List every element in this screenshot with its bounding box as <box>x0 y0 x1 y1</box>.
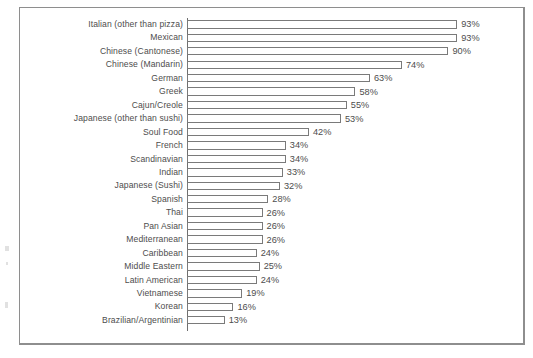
chart-row: Latin American24% <box>20 274 526 287</box>
chart-row: Chinese (Mandarin)74% <box>20 58 526 71</box>
chart-row: Cajun/Creole55% <box>20 99 526 112</box>
bar-value-label: 24% <box>261 274 279 287</box>
scan-artifact-mark <box>5 302 8 308</box>
category-label: Middle Eastern <box>124 260 183 273</box>
bar-value-label: 74% <box>406 59 424 72</box>
bar-value-label: 32% <box>284 180 302 193</box>
chart-row: Japanese (other than sushi)53% <box>20 112 526 125</box>
bar-value-label: 19% <box>246 287 264 300</box>
bar-value-label: 63% <box>374 72 392 85</box>
bar-value-label: 34% <box>290 153 308 166</box>
chart-row: French34% <box>20 139 526 152</box>
bar-value-label: 53% <box>345 113 363 126</box>
bar <box>187 155 286 163</box>
category-label: Chinese (Mandarin) <box>106 58 183 71</box>
bar-value-label: 26% <box>267 220 285 233</box>
chart-frame: Italian (other than pizza)93%Mexican93%C… <box>19 7 525 345</box>
bar-value-label: 24% <box>261 247 279 260</box>
bar-value-label: 26% <box>267 207 285 220</box>
bar <box>187 249 257 257</box>
chart-row: Scandinavian34% <box>20 153 526 166</box>
category-label: Mexican <box>150 31 183 44</box>
bar <box>187 262 260 270</box>
bar <box>187 303 233 311</box>
bar-value-label: 93% <box>461 32 479 45</box>
bar-chart-plot-area: Italian (other than pizza)93%Mexican93%C… <box>20 8 526 346</box>
chart-row: Pan Asian26% <box>20 220 526 233</box>
bar <box>187 208 263 216</box>
chart-row: Caribbean24% <box>20 247 526 260</box>
category-label: Chinese (Cantonese) <box>100 45 183 58</box>
bar <box>187 289 242 297</box>
category-label: Vietnamese <box>137 287 183 300</box>
chart-row: Japanese (Sushi)32% <box>20 179 526 192</box>
bar <box>187 316 225 324</box>
chart-row: Mexican93% <box>20 31 526 44</box>
category-label: Scandinavian <box>130 153 183 166</box>
chart-row: Korean16% <box>20 300 526 313</box>
category-label: Latin American <box>125 274 183 287</box>
bar <box>187 114 341 122</box>
category-label: Brazilian/Argentinian <box>102 314 183 327</box>
bar-value-label: 28% <box>272 193 290 206</box>
category-label: Mediterranean <box>126 233 183 246</box>
category-label: Japanese (other than sushi) <box>74 112 183 125</box>
category-label: Italian (other than pizza) <box>88 18 183 31</box>
bar <box>187 128 309 136</box>
bar-value-label: 58% <box>359 86 377 99</box>
bar <box>187 168 283 176</box>
chart-row: Spanish28% <box>20 193 526 206</box>
chart-row: Mediterranean26% <box>20 233 526 246</box>
category-label: Thai <box>166 206 183 219</box>
bar-value-label: 33% <box>287 166 305 179</box>
bar-value-label: 42% <box>313 126 331 139</box>
bar-value-label: 16% <box>237 301 255 314</box>
chart-row: Greek58% <box>20 85 526 98</box>
bar <box>187 74 370 82</box>
bar <box>187 34 457 42</box>
chart-row: Chinese (Cantonese)90% <box>20 45 526 58</box>
category-label: Japanese (Sushi) <box>115 179 183 192</box>
bar <box>187 235 263 243</box>
chart-row: Italian (other than pizza)93% <box>20 18 526 31</box>
category-label: Caribbean <box>142 247 183 260</box>
category-label: French <box>156 139 183 152</box>
category-label: Indian <box>159 166 183 179</box>
bar <box>187 182 280 190</box>
chart-row: Middle Eastern25% <box>20 260 526 273</box>
bar-value-label: 13% <box>229 314 247 327</box>
category-label: Pan Asian <box>143 220 183 233</box>
bar <box>187 61 402 69</box>
chart-row: Vietnamese19% <box>20 287 526 300</box>
chart-row: Thai26% <box>20 206 526 219</box>
scan-artifact-mark <box>5 246 9 251</box>
bar <box>187 141 286 149</box>
chart-row: Indian33% <box>20 166 526 179</box>
bar <box>187 20 457 28</box>
category-label: Spanish <box>151 193 183 206</box>
category-label: Korean <box>155 300 183 313</box>
chart-row: German63% <box>20 72 526 85</box>
bar <box>187 101 347 109</box>
category-label: Cajun/Creole <box>132 99 183 112</box>
scan-artifact-mark <box>6 262 8 265</box>
bar <box>187 87 355 95</box>
bar-value-label: 90% <box>452 45 470 58</box>
bar-value-label: 93% <box>461 18 479 31</box>
chart-row: Brazilian/Argentinian13% <box>20 314 526 327</box>
category-label: Greek <box>159 85 183 98</box>
bar-value-label: 34% <box>290 139 308 152</box>
bar <box>187 276 257 284</box>
bar <box>187 222 263 230</box>
bar-value-label: 55% <box>351 99 369 112</box>
bar <box>187 47 448 55</box>
bar-value-label: 25% <box>264 260 282 273</box>
chart-row: Soul Food42% <box>20 126 526 139</box>
category-label: German <box>151 72 183 85</box>
bar-value-label: 26% <box>267 234 285 247</box>
bar <box>187 195 268 203</box>
category-label: Soul Food <box>143 126 183 139</box>
